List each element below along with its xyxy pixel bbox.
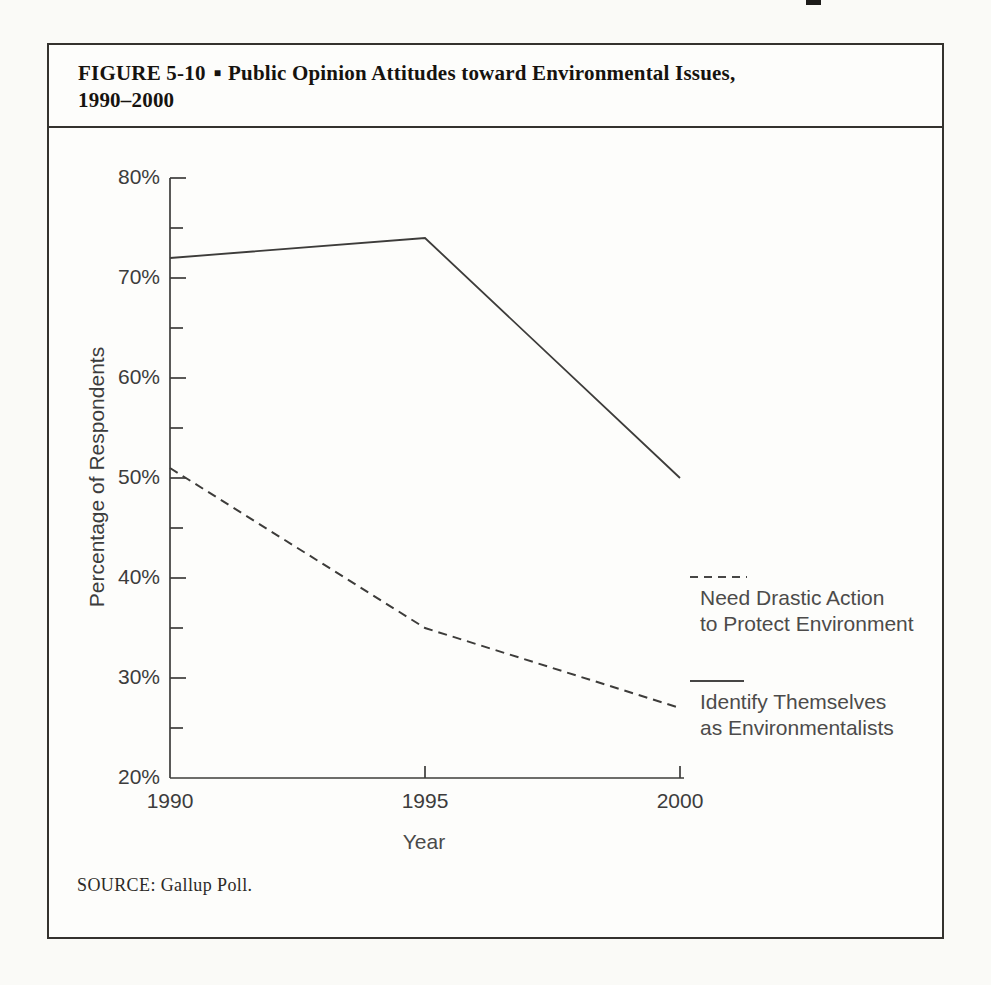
- x-tick-label: 1990: [130, 789, 210, 813]
- y-tick-label: 80%: [96, 165, 160, 189]
- y-tick-label: 40%: [96, 565, 160, 589]
- x-tick-label: 2000: [640, 789, 720, 813]
- legend-label-line: to Protect Environment: [700, 611, 914, 637]
- legend-label-drastic-action: Need Drastic Action to Protect Environme…: [700, 585, 914, 637]
- y-tick-label: 70%: [96, 265, 160, 289]
- legend-label-line: Identify Themselves: [700, 689, 894, 715]
- chart-canvas: [0, 0, 991, 985]
- y-tick-label: 20%: [96, 765, 160, 789]
- y-tick-label: 50%: [96, 465, 160, 489]
- x-tick-label: 1995: [385, 789, 465, 813]
- legend-item-environmentalists: Identify Themselves as Environmentalists: [690, 680, 894, 741]
- x-axis-title: Year: [403, 830, 445, 854]
- solid-line-sample-icon: [690, 680, 744, 682]
- y-tick-label: 60%: [96, 365, 160, 389]
- book-page: FIGURE 5-10■Public Opinion Attitudes tow…: [0, 0, 991, 985]
- legend-label-environmentalists: Identify Themselves as Environmentalists: [700, 689, 894, 741]
- series-dashed-line: [170, 468, 680, 708]
- series-solid-line: [170, 238, 680, 478]
- dashed-line-sample-icon: [690, 576, 747, 578]
- chart-layer: Percentage of Respondents Year Need Dras…: [0, 0, 991, 985]
- legend-label-line: as Environmentalists: [700, 715, 894, 741]
- legend-label-line: Need Drastic Action: [700, 585, 914, 611]
- y-tick-label: 30%: [96, 665, 160, 689]
- legend-item-drastic-action: Need Drastic Action to Protect Environme…: [690, 576, 914, 637]
